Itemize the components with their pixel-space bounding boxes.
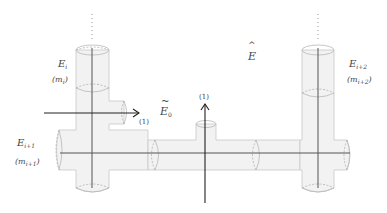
label-left-arrow: (1) bbox=[139, 118, 149, 126]
label-m-i1: (mi+1) bbox=[15, 157, 40, 167]
label-m-i2: (mi+2) bbox=[347, 75, 372, 85]
label-m-i: (mi) bbox=[52, 75, 68, 85]
label-E-i: Ei bbox=[57, 58, 67, 70]
label-up-arrow: (1) bbox=[199, 93, 209, 101]
left-vertical-pipe bbox=[57, 50, 149, 192]
label-E-hat-accent: ^ bbox=[248, 40, 256, 50]
label-E0-tilde: E0 bbox=[159, 105, 172, 118]
label-E-i1: Ei+1 bbox=[16, 137, 35, 149]
middle-pipe-assembly bbox=[148, 121, 300, 171]
middle-horizontal-pipe bbox=[148, 124, 300, 170]
right-pipe-assembly bbox=[300, 45, 350, 192]
pipe-network-diagram: Ei (mi) Ei+1 (mi+1) Ei+2 (mi+2) E ^ E0 ~… bbox=[0, 0, 387, 213]
label-E-hat: E bbox=[247, 50, 256, 63]
label-E-i2: Ei+2 bbox=[348, 58, 367, 70]
right-vertical-pipe bbox=[300, 50, 350, 192]
left-pipe-assembly bbox=[56, 45, 148, 192]
label-E0-tilde-accent: ~ bbox=[161, 95, 169, 106]
